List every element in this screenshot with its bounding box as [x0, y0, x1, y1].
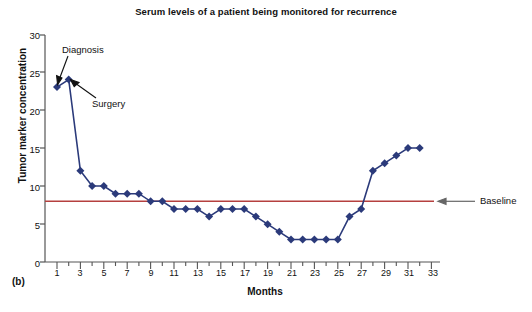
data-point: [205, 213, 213, 221]
data-point: [369, 167, 377, 175]
data-point: [240, 205, 248, 213]
data-point: [334, 236, 342, 244]
data-point: [123, 190, 131, 198]
data-point: [53, 83, 61, 91]
x-tick-marks: [57, 262, 431, 269]
data-point: [135, 190, 143, 198]
data-point: [322, 236, 330, 244]
data-point: [346, 213, 354, 221]
data-point: [252, 213, 260, 221]
data-point: [357, 205, 365, 213]
data-point: [404, 144, 412, 152]
surgery-leader-arrow: [71, 80, 97, 98]
data-series-line: [57, 80, 420, 240]
data-point: [193, 205, 201, 213]
data-point: [392, 152, 400, 160]
data-point: [217, 205, 225, 213]
data-point: [381, 159, 389, 167]
baseline-callout-arrow: [438, 198, 475, 204]
data-point: [310, 236, 318, 244]
data-point: [229, 205, 237, 213]
data-point: [416, 144, 424, 152]
plot-canvas: [0, 0, 532, 312]
figure-panel: Serum levels of a patient being monitore…: [0, 0, 532, 312]
data-point: [299, 236, 307, 244]
y-tick-marks: [40, 35, 45, 262]
data-point: [264, 220, 272, 228]
data-point-markers: [53, 76, 424, 244]
data-point: [147, 197, 155, 205]
data-point: [182, 205, 190, 213]
